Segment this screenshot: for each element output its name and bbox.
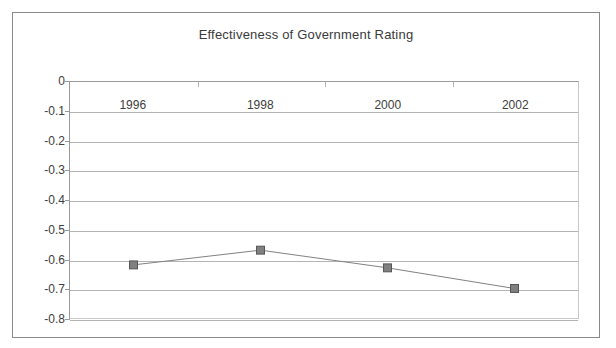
chart-frame: Effectiveness of Government Rating 0-0.1… [12, 12, 600, 338]
chart-title: Effectiveness of Government Rating [13, 27, 599, 42]
x-axis-tick-label: 1996 [119, 98, 146, 112]
x-axis-tick-label: 2000 [374, 98, 401, 112]
data-point-marker [384, 264, 392, 272]
data-point-marker [511, 285, 519, 293]
series-line [134, 250, 515, 288]
y-axis-tick-label: -0.3 [44, 163, 65, 177]
gridline [70, 320, 578, 321]
y-axis-tick-label: -0.1 [44, 104, 65, 118]
y-tick-mark [65, 289, 70, 290]
y-axis-tick-label: 0 [58, 74, 65, 88]
y-axis-tick-label: -0.6 [44, 253, 65, 267]
data-series [70, 82, 578, 318]
y-axis-tick-label: -0.7 [44, 282, 65, 296]
y-tick-mark [65, 260, 70, 261]
y-tick-mark [65, 170, 70, 171]
y-axis-tick-label: -0.5 [44, 223, 65, 237]
y-tick-mark [65, 230, 70, 231]
data-point-marker [257, 246, 265, 254]
y-axis-labels: 0-0.1-0.2-0.3-0.4-0.5-0.6-0.7-0.8 [25, 81, 65, 319]
y-axis-tick-label: -0.2 [44, 134, 65, 148]
y-tick-mark [65, 141, 70, 142]
data-point-marker [130, 261, 138, 269]
y-tick-mark [65, 319, 70, 320]
y-axis-tick-label: -0.4 [44, 193, 65, 207]
x-axis-tick-label: 2002 [502, 98, 529, 112]
y-tick-mark [65, 81, 70, 82]
plot-area [69, 81, 579, 319]
x-axis-labels: 1996199820002002 [69, 98, 579, 116]
y-tick-mark [65, 111, 70, 112]
x-axis-tick-label: 1998 [247, 98, 274, 112]
y-tick-mark [65, 200, 70, 201]
y-axis-tick-label: -0.8 [44, 312, 65, 326]
